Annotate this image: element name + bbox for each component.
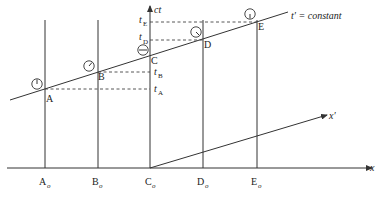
- svg-text:D: D: [197, 176, 204, 187]
- svg-text:o: o: [205, 182, 209, 190]
- svg-text:B: B: [92, 176, 99, 187]
- ct-axis-label: ct: [154, 4, 161, 15]
- event-label-e: E: [258, 21, 264, 32]
- clock-icon-d: [191, 27, 201, 37]
- time-label-e: t E: [139, 14, 147, 28]
- base-label-b: B o: [92, 176, 103, 190]
- base-label-e: E o: [251, 176, 262, 190]
- diagram-svg: A B C D E t A t B t D t E ct x x′ t′ = c…: [0, 0, 377, 199]
- svg-text:E: E: [251, 176, 257, 187]
- spacetime-diagram: A B C D E t A t B t D t E ct x x′ t′ = c…: [0, 0, 377, 199]
- svg-text:o: o: [152, 182, 156, 190]
- svg-text:o: o: [47, 182, 51, 190]
- x-axis-label: x: [369, 162, 375, 173]
- base-label-a: A o: [39, 176, 51, 190]
- svg-text:A: A: [158, 89, 163, 97]
- base-label-d: D o: [197, 176, 209, 190]
- event-label-a: A: [46, 93, 54, 104]
- base-label-c: C o: [145, 176, 156, 190]
- clock-icon-b: [84, 61, 94, 71]
- svg-text:t: t: [154, 66, 157, 77]
- svg-text:A: A: [39, 176, 47, 187]
- svg-text:o: o: [258, 182, 262, 190]
- svg-text:t: t: [154, 83, 157, 94]
- svg-text:D: D: [143, 38, 148, 46]
- event-label-d: D: [204, 39, 211, 50]
- svg-text:E: E: [143, 20, 147, 28]
- svg-text:B: B: [158, 72, 163, 80]
- x-prime-axis: [150, 115, 327, 168]
- t-prime-constant-line: [10, 12, 288, 100]
- event-label-b: B: [98, 71, 105, 82]
- time-label-d: t D: [139, 31, 148, 46]
- clock-icon-c: [138, 45, 148, 55]
- svg-text:o: o: [99, 182, 103, 190]
- time-label-b: t B: [154, 66, 163, 80]
- svg-text:t: t: [139, 14, 142, 25]
- clock-icon-a: [32, 79, 42, 89]
- t-prime-constant-label: t′ = constant: [291, 10, 342, 21]
- x-prime-axis-label: x′: [328, 110, 336, 121]
- svg-text:C: C: [145, 176, 152, 187]
- clock-icon-e: [245, 9, 255, 19]
- svg-text:t: t: [139, 31, 142, 42]
- event-label-c: C: [151, 55, 158, 66]
- time-label-a: t A: [154, 83, 163, 97]
